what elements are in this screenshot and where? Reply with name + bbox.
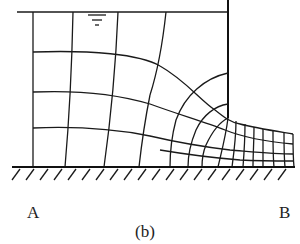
figure-caption: (b)	[135, 222, 155, 242]
label-b: B	[279, 203, 290, 223]
water-level-icon	[88, 15, 106, 25]
flow-net-diagram	[0, 0, 300, 244]
equipotential-lines	[65, 12, 294, 167]
label-a: A	[27, 203, 39, 223]
ground-hatch	[12, 169, 286, 180]
